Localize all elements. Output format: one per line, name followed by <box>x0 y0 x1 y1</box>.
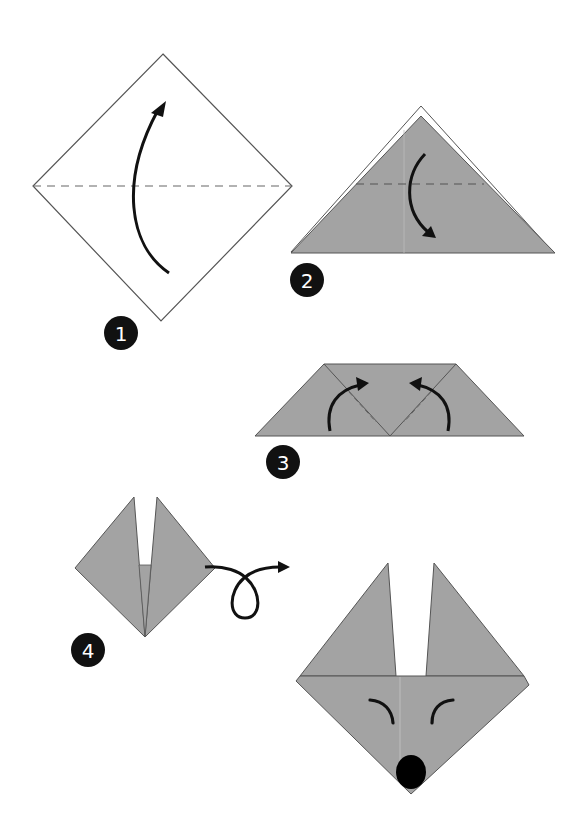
origami-diagram: 1 2 3 4 <box>0 0 581 831</box>
square-paper <box>33 54 292 321</box>
step-1: 1 <box>33 54 292 350</box>
step-number-1: 1 <box>115 322 128 346</box>
fox-face-result <box>296 563 529 794</box>
step-number-4: 4 <box>82 639 95 663</box>
step-2: 2 <box>290 106 555 297</box>
left-ear-flap <box>75 497 145 637</box>
fox-right-ear <box>426 563 524 676</box>
fox-nose <box>396 755 426 789</box>
step-3: 3 <box>255 364 524 479</box>
right-ear-flap <box>145 497 215 637</box>
arrow-head-icon <box>278 561 290 573</box>
step-number-2: 2 <box>301 269 314 293</box>
triangle-paper <box>291 116 555 253</box>
trapezoid-paper <box>255 364 524 436</box>
step-4: 4 <box>71 497 290 667</box>
step-number-3: 3 <box>277 451 290 475</box>
fox-left-ear <box>300 563 396 676</box>
turn-over-arrow <box>205 567 280 618</box>
